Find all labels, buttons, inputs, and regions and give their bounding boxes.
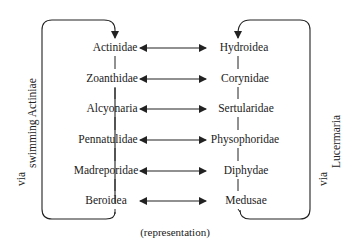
diagram-caption: (representation) bbox=[140, 226, 210, 238]
diagram-lines bbox=[0, 0, 353, 249]
row-arrows bbox=[140, 48, 206, 201]
right-node-sertularidae: Sertularidae bbox=[218, 103, 274, 115]
left-node-beroidea: Beroidea bbox=[85, 195, 127, 207]
left-node-pennatulidae: Pennatulidae bbox=[78, 134, 137, 146]
left-node-zoanthidae: Zoanthidae bbox=[86, 73, 138, 85]
left-node-actinidae: Actinidae bbox=[93, 42, 138, 54]
left-loop-label: swimming Actiniae bbox=[27, 78, 39, 168]
right-node-corynidae: Corynidae bbox=[221, 73, 269, 85]
right-loop-via: via bbox=[318, 172, 330, 186]
right-loop-label: Lucermaria bbox=[331, 115, 343, 168]
left-node-madreporidae: Madreporidae bbox=[74, 165, 139, 177]
right-node-diphydae: Diphydae bbox=[224, 165, 269, 177]
left-loop-via: via bbox=[16, 172, 28, 186]
right-node-medusae: Medusae bbox=[225, 195, 267, 207]
left-node-alcyonaria: Alcyonaria bbox=[86, 103, 137, 115]
right-node-hydroidea: Hydroidea bbox=[220, 42, 269, 54]
right-node-physophoridae: Physophoridae bbox=[211, 134, 279, 146]
